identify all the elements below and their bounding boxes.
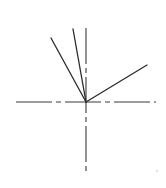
ray-right-line [86,65,147,102]
angle-diagram [0,0,166,188]
marks-group [156,170,158,172]
rays-group [51,29,147,102]
stray-dot [156,170,158,172]
diagram-canvas [0,0,166,188]
